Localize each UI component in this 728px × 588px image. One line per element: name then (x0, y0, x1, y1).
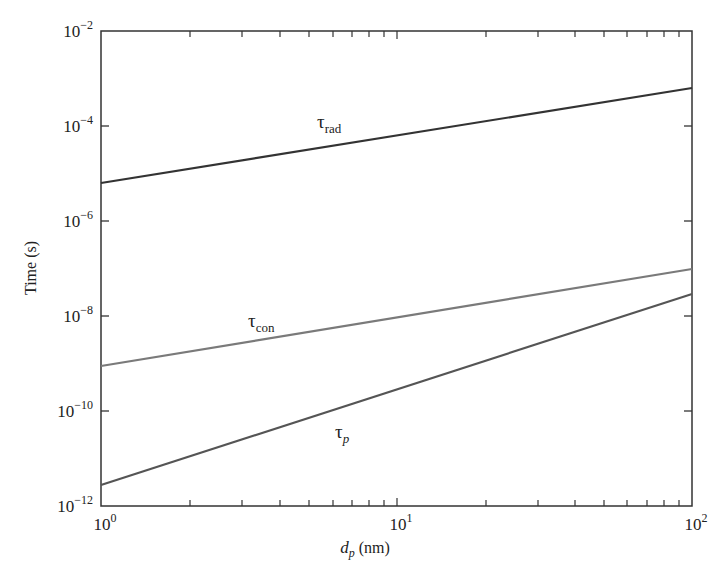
y-tick-label: 10−2 (63, 18, 93, 41)
chart: τrad τcon τp 10−2 10−4 10−6 10−8 10−10 1… (0, 0, 728, 588)
x-tick-label: 100 (94, 511, 117, 534)
y-tick-labels: 10−2 10−4 10−6 10−8 10−10 10−12 (57, 18, 93, 516)
y-tick-label: 10−8 (63, 303, 93, 326)
y-axis-title: Time (s) (22, 241, 40, 295)
x-tick-label: 101 (390, 511, 413, 534)
x-tick-label: 102 (685, 511, 708, 534)
y-tick-label: 10−12 (57, 493, 93, 516)
series-label-tau-p: τp (335, 421, 350, 446)
y-tick-label: 10−6 (63, 208, 93, 231)
series-line-tau-rad (101, 88, 692, 183)
series-line-tau-con (101, 269, 692, 366)
y-tick-label: 10−4 (63, 113, 93, 136)
series-label-tau-con: τcon (248, 310, 275, 335)
series-label-tau-rad: τrad (317, 111, 342, 136)
x-axis-title: dp (nm) (340, 538, 390, 560)
series-line-tau-p (101, 294, 692, 485)
y-tick-label: 10−10 (57, 398, 93, 421)
x-tick-labels: 100 101 102 (94, 511, 708, 534)
